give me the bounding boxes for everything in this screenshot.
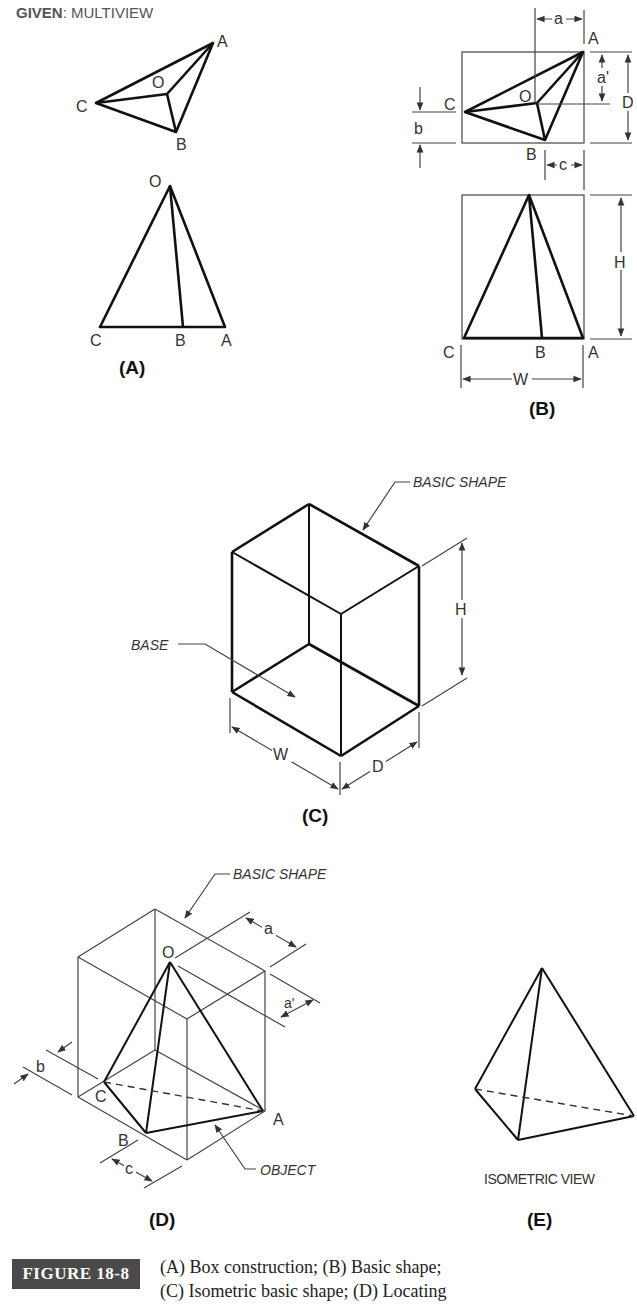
dim-w-label: W [273, 746, 289, 763]
point-a-label: A [588, 344, 599, 361]
dim-h-label: H [455, 601, 467, 618]
callout-basic-shape: BASIC SHAPE [413, 474, 507, 490]
dim-a-label: a [554, 10, 563, 27]
dim-a-prime-label: a' [284, 995, 294, 1011]
figure-number-badge: FIGURE 18-8 [12, 1259, 140, 1289]
callout-object: OBJECT [260, 1162, 317, 1178]
callout-base: BASE [131, 637, 169, 653]
dim-d-label: D [622, 94, 634, 111]
point-a-label: A [221, 332, 232, 349]
point-c-label: C [95, 1088, 107, 1105]
panel-e: ISOMETRIC VIEW (E) [475, 968, 634, 1230]
point-b-label: B [535, 344, 546, 361]
dim-a-prime-label: a' [597, 69, 609, 86]
dim-b-label: b [414, 120, 423, 137]
dim-c-label: c [125, 1160, 133, 1177]
dim-h-label: H [614, 254, 626, 271]
dim-b-label: b [36, 1058, 45, 1075]
point-o-label: O [519, 88, 531, 105]
point-b-label: B [176, 136, 187, 153]
isometric-view-caption: ISOMETRIC VIEW [484, 1171, 596, 1187]
panel-c-label: (C) [302, 805, 328, 826]
point-c-label: C [444, 96, 456, 113]
point-b-label: B [526, 146, 537, 163]
dim-c-label: c [559, 156, 567, 173]
point-b-label: B [118, 1132, 129, 1149]
point-a-label: A [588, 30, 599, 47]
panel-d: BASIC SHAPE OBJECT a a' b c O C B A (D) [14, 866, 327, 1230]
panel-d-label: (D) [149, 1209, 175, 1230]
point-c-label: C [76, 98, 88, 115]
point-b-label: B [175, 332, 186, 349]
point-a-label: A [217, 33, 228, 50]
point-c-label: C [90, 332, 102, 349]
point-o-label: O [152, 74, 164, 91]
panel-e-label: (E) [527, 1209, 552, 1230]
figure-canvas: A C O B O C B A (A) a [0, 0, 637, 1312]
dim-d-label: D [372, 758, 384, 775]
point-a-label: A [273, 1111, 284, 1128]
panel-b: a a' D b c B C O A H [412, 8, 636, 419]
figure-caption-line-1: (A) Box construction; (B) Basic shape; [160, 1255, 446, 1279]
panel-a-top-view: A C O B [76, 33, 228, 153]
point-o-label: O [162, 944, 174, 961]
point-c-label: C [443, 344, 455, 361]
panel-a: A C O B O C B A (A) [76, 33, 232, 378]
dim-a-label: a [264, 920, 273, 937]
panel-b-label: (B) [529, 398, 555, 419]
panel-c: BASIC SHAPE BASE H W D (C) [131, 474, 507, 826]
panel-a-label: (A) [119, 357, 145, 378]
figure-caption: (A) Box construction; (B) Basic shape; (… [160, 1255, 446, 1303]
dim-w-label: W [513, 371, 529, 388]
figure-caption-line-2: (C) Isometric basic shape; (D) Locating [160, 1279, 446, 1303]
point-o-label: O [149, 173, 161, 190]
callout-basic-shape: BASIC SHAPE [233, 866, 327, 882]
panel-a-front-view: O C B A [90, 173, 232, 349]
